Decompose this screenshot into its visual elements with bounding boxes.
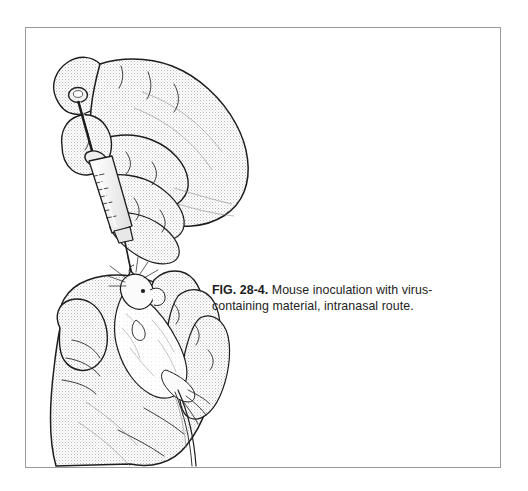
mouse-eye — [141, 289, 145, 293]
illustration-svg — [26, 28, 266, 467]
figure-caption-label: FIG. 28-4. — [212, 283, 268, 297]
figure-caption: FIG. 28-4. Mouse inoculation with virus-… — [212, 283, 474, 314]
figure-frame: FIG. 28-4. Mouse inoculation with virus-… — [25, 27, 501, 468]
figure-illustration — [26, 28, 266, 467]
figure-page: FIG. 28-4. Mouse inoculation with virus-… — [0, 0, 528, 491]
